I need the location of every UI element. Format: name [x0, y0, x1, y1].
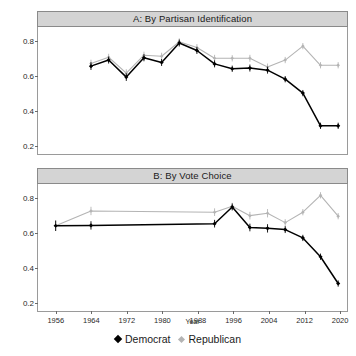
- data-point-marker: [230, 67, 234, 71]
- panel-b-title: B: By Vote Choice: [153, 171, 231, 181]
- data-point-marker: [89, 64, 93, 68]
- panel-a-title: A: By Partisan Identification: [133, 14, 252, 24]
- data-point-marker: [248, 66, 252, 70]
- data-point-marker: [230, 57, 234, 61]
- y-tick-mark: [35, 76, 38, 77]
- x-tick-mark: [305, 311, 306, 314]
- data-point-marker: [89, 223, 93, 227]
- data-point-marker: [248, 57, 252, 61]
- y-tick-mark: [35, 198, 38, 199]
- x-tick-mark: [269, 311, 270, 314]
- y-tick-mark: [35, 41, 38, 42]
- x-tick-mark: [56, 311, 57, 314]
- diamond-dark-icon: [114, 335, 122, 343]
- panel-b-plot-area: 0.20.40.60.81956196419721980198819962004…: [37, 184, 348, 312]
- panel-a-plot-area: 0.20.40.60.8: [37, 27, 348, 155]
- y-tick-label: 0.4: [23, 107, 34, 116]
- data-point-marker: [336, 124, 340, 128]
- data-point-marker: [213, 210, 217, 214]
- x-tick-mark: [127, 311, 128, 314]
- figure-root: A: By Partisan Identification 0.20.40.60…: [0, 0, 356, 356]
- series-republican: [89, 38, 340, 77]
- panel-vote-choice: B: By Vote Choice 0.20.40.60.81956196419…: [37, 168, 348, 312]
- legend: Democrat Republican: [0, 333, 356, 345]
- data-point-marker: [54, 224, 58, 228]
- data-point-marker: [89, 209, 93, 213]
- y-tick-label: 0.2: [23, 299, 34, 308]
- y-tick-mark: [35, 268, 38, 269]
- x-axis-title: Year: [37, 318, 348, 325]
- panel-b-strip: B: By Vote Choice: [37, 168, 348, 184]
- y-tick-label: 0.6: [23, 229, 34, 238]
- y-tick-mark: [35, 233, 38, 234]
- legend-label-democrat: Democrat: [125, 333, 171, 345]
- panel-a-strip: A: By Partisan Identification: [37, 11, 348, 27]
- legend-item-democrat: Democrat: [115, 333, 171, 345]
- y-tick-mark: [35, 111, 38, 112]
- x-tick-mark: [162, 311, 163, 314]
- y-tick-label: 0.2: [23, 142, 34, 151]
- legend-item-republican: Republican: [179, 333, 241, 345]
- y-tick-label: 0.8: [23, 37, 34, 46]
- x-tick-mark: [340, 311, 341, 314]
- panel-a-svg: [38, 27, 347, 154]
- y-tick-label: 0.8: [23, 194, 34, 203]
- x-tick-mark: [233, 311, 234, 314]
- series-line: [56, 207, 339, 284]
- series-line: [56, 195, 339, 225]
- legend-label-republican: Republican: [188, 333, 241, 345]
- y-tick-mark: [35, 146, 38, 147]
- x-tick-mark: [91, 311, 92, 314]
- panel-partisan-identification: A: By Partisan Identification 0.20.40.60…: [37, 11, 348, 155]
- y-tick-label: 0.6: [23, 72, 34, 81]
- series-democrat: [89, 40, 340, 129]
- y-tick-mark: [35, 303, 38, 304]
- x-tick-mark: [198, 311, 199, 314]
- data-point-marker: [265, 226, 269, 230]
- panel-b-svg: [38, 184, 347, 311]
- diamond-light-icon: [178, 335, 185, 342]
- y-tick-label: 0.4: [23, 264, 34, 273]
- data-point-marker: [336, 63, 340, 67]
